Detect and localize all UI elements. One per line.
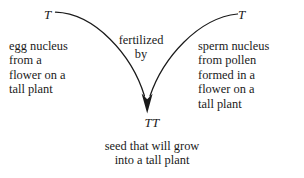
- caption-seed-outcome: seed that will grow into a tall plant: [0, 139, 304, 168]
- genotype-label-zygote: TT: [0, 116, 304, 129]
- allele-label-egg: T: [44, 8, 51, 21]
- zygote-arrowhead-icon: [142, 94, 153, 114]
- caption-fertilized-by: fertilized by: [100, 33, 182, 62]
- caption-egg-nucleus: egg nucleus from a flower on a tall plan…: [9, 39, 109, 97]
- punnett-fertilization-diagram: T T TT egg nucleus from a flower on a ta…: [0, 0, 304, 178]
- allele-label-sperm: T: [238, 8, 245, 21]
- caption-sperm-nucleus: sperm nucleus from pollen formed in a fl…: [198, 39, 302, 111]
